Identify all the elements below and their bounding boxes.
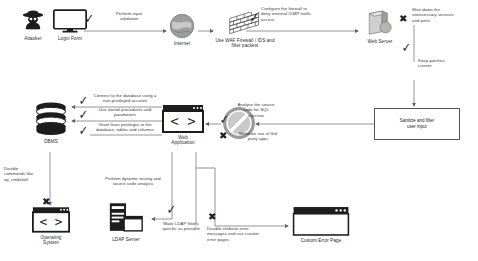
hacker-icon (20, 8, 46, 34)
annotation-least-privileges: Grant least privileges to the database, … (89, 122, 161, 133)
monitor-icon (53, 9, 87, 34)
database-icon (34, 101, 68, 137)
node-label: Attacker (24, 36, 42, 42)
check-mark-icon: ✓ (250, 11, 259, 24)
annotation-minimize-third-party: Minimize use of 3rd party apps (230, 131, 286, 142)
annotation-nonprivileged-account: Connect to the database using a non-priv… (89, 93, 161, 104)
annotation-dynamic-testing: Perform dynamic testing and source code … (96, 176, 170, 187)
node-attacker[interactable]: Attacker (16, 8, 50, 41)
globe-icon (169, 13, 195, 39)
cross-mark-icon: ✖ (42, 197, 50, 207)
node-custom-error-page[interactable]: Custom Error Page (286, 206, 356, 243)
annotation-keep-patches-current: Keep patches current (418, 58, 470, 69)
check-mark-icon: ✓ (79, 108, 88, 121)
annotation-analyse-source-code: Analyse the source code for SQL injectio… (228, 102, 284, 118)
annotation-ldap-filters-specific: Make LDAP filter's specific as possible (152, 221, 210, 232)
server-icon (365, 10, 395, 37)
cross-mark-icon: ✖ (399, 14, 407, 24)
node-label: Internet (174, 41, 190, 47)
annotation-configure-firewall-icmp: Configure the firewall to deny external … (261, 6, 335, 22)
node-internet[interactable]: Internet (164, 13, 200, 46)
node-label: Login Form (58, 36, 82, 42)
node-label: Web Application (171, 135, 194, 146)
check-mark-icon: ✓ (402, 41, 411, 54)
code-window-icon: < > (32, 206, 70, 233)
ldap-server-icon (107, 202, 145, 235)
check-mark-icon: ✓ (79, 124, 88, 137)
node-label: Custom Error Page (301, 238, 342, 244)
node-label: Use WAF Firewall / IDS and filter packet… (215, 38, 274, 49)
annotation-shutdown-services: Shut down the unnecessary services and p… (412, 7, 472, 23)
node-operating-system[interactable]: < > Operating System (30, 206, 72, 246)
check-mark-icon: ✓ (85, 12, 94, 25)
diagram-canvas: Attacker Login Form Internet (0, 0, 478, 261)
svg-text:< >: < > (40, 214, 63, 229)
code-window-icon: < > (162, 104, 204, 133)
check-mark-icon: ✓ (167, 203, 176, 216)
node-web-application[interactable]: < > Web Application (160, 104, 206, 146)
node-login-form[interactable]: Login Form (52, 9, 88, 41)
node-web-server[interactable]: Web Server (358, 10, 402, 44)
check-mark-icon: ✓ (79, 94, 88, 107)
node-sanitize-box[interactable]: Sanitize and filter user input (374, 108, 460, 140)
annotation-perform-input-validation: Perform input validation (100, 11, 158, 22)
node-label: Operating System (41, 235, 62, 246)
node-label: DBMS (44, 139, 58, 145)
cross-mark-icon: ✖ (208, 212, 216, 222)
node-label: LDAP Server (112, 237, 140, 243)
node-label: Web Server (368, 39, 393, 45)
svg-text:< >: < > (170, 113, 195, 129)
node-ldap-server[interactable]: LDAP Server (100, 202, 152, 242)
annotation-disable-verbose-errors: Disable verbose error messages and use c… (207, 226, 279, 242)
annotation-disable-xp-cmdshell: Disable commands like xp_cmdshell (4, 166, 50, 182)
annotation-stored-procedures: Use stored procedures and parameters (89, 107, 161, 118)
browser-window-icon (292, 206, 350, 236)
node-dbms[interactable]: DBMS (30, 101, 72, 144)
cross-mark-icon: ✖ (219, 131, 227, 141)
